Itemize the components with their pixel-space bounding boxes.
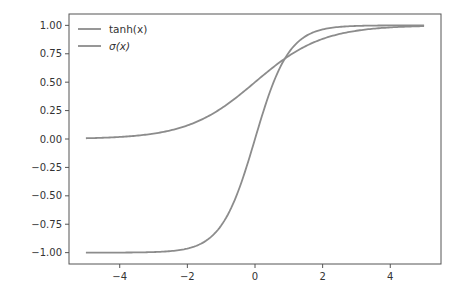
y-tick-label: −0.25 [31, 162, 62, 173]
x-tick-label: 2 [319, 271, 325, 282]
x-tick-label: 4 [387, 271, 393, 282]
legend-label-sigmoid: σ(x) [109, 40, 130, 52]
x-tick-label: −2 [180, 271, 195, 282]
y-tick-label: 0.75 [40, 48, 62, 59]
x-tick-label: 0 [252, 271, 258, 282]
y-tick-label: −0.50 [31, 190, 62, 201]
y-tick-label: 1.00 [40, 20, 62, 31]
y-tick-label: −1.00 [31, 247, 62, 258]
y-tick-label: −0.75 [31, 219, 62, 230]
y-tick-label: 0.25 [40, 105, 62, 116]
chart: −4−2024 1.000.750.500.250.00−0.25−0.50−0… [0, 0, 461, 298]
y-tick-label: 0.50 [40, 77, 62, 88]
x-tick-label: −4 [112, 271, 127, 282]
legend-label-tanh: tanh(x) [109, 23, 147, 35]
y-tick-label: 0.00 [40, 134, 62, 145]
